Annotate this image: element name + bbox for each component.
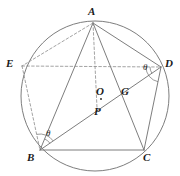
point-label-b: B: [27, 152, 34, 163]
figure-canvas: [0, 0, 180, 176]
segment-A-D: [93, 23, 161, 67]
angle-label-theta-at-D: θ: [143, 63, 147, 72]
point-label-g: G: [121, 86, 129, 97]
geometry-figure: AEDBCOGPθθ: [0, 0, 180, 176]
angle-arc-theta-at-D: [150, 67, 152, 73]
point-label-a: A: [88, 6, 95, 17]
point-label-d: D: [165, 58, 173, 69]
segment-E-B: [22, 66, 40, 150]
point-label-c: C: [143, 152, 150, 163]
circumcircle: [21, 21, 169, 171]
point-marker-o: [100, 98, 102, 100]
point-label-o: O: [96, 86, 104, 97]
angle-arc-theta-at-D-outer: [146, 67, 158, 82]
segment-A-E: [22, 23, 93, 66]
point-label-e: E: [6, 58, 13, 69]
segment-E-D: [22, 66, 161, 67]
angle-arc-theta-at-B: [45, 139, 50, 143]
angle-label-theta-at-B: θ: [46, 129, 50, 138]
point-label-p: P: [94, 106, 101, 117]
